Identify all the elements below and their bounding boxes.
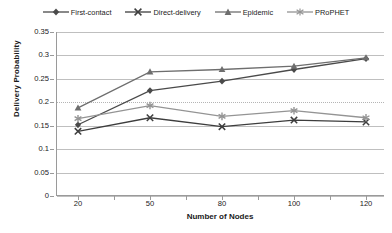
x-axis-tick-label: 50 <box>146 199 154 208</box>
y-axis-tick-label: 0.1 <box>38 145 49 153</box>
y-axis-tick-label: 0.25 <box>34 75 49 83</box>
legend-label-prophet: PRoPHET <box>315 8 349 17</box>
x-axis-tick-label: 100 <box>288 199 301 208</box>
series-layer <box>56 32 384 196</box>
legend-label-direct-delivery: Direct-delivery <box>153 8 200 17</box>
legend-marker-asterisk-icon <box>287 7 313 17</box>
y-axis-tick-label: 0.05 <box>34 169 49 177</box>
x-axis-tick-label: 80 <box>218 199 226 208</box>
y-axis-tick-labels: 00.050.10.150.20.250.30.35 <box>0 32 54 196</box>
legend-item-prophet[interactable]: PRoPHET <box>287 7 349 17</box>
y-axis-title: Delivery Probability <box>12 19 21 139</box>
data-point-diamond <box>147 87 153 94</box>
x-axis-tick-label: 20 <box>74 199 82 208</box>
y-axis-tick-label: 0.35 <box>34 28 49 36</box>
legend-item-first-contact[interactable]: First-contact <box>43 7 112 17</box>
legend-label-epidemic: Epidemic <box>243 8 273 17</box>
x-axis-tick-label: 120 <box>360 199 373 208</box>
y-axis-tick-label: 0.15 <box>34 122 49 130</box>
x-axis-title: Number of Nodes <box>56 212 384 221</box>
legend-label-first-contact: First-contact <box>71 8 112 17</box>
data-point-triangle <box>75 104 82 110</box>
legend-marker-x-cross-icon <box>125 7 151 17</box>
data-point-diamond <box>219 78 225 85</box>
legend-marker-triangle-icon <box>215 7 241 17</box>
legend-item-epidemic[interactable]: Epidemic <box>215 7 273 17</box>
chart-legend: First-contact Direct-delivery Epidemic <box>0 4 392 20</box>
y-axis-tick-label: 0 <box>45 192 49 200</box>
legend-marker-diamond-icon <box>43 7 69 17</box>
x-axis-tick-labels: 205080100120 <box>56 199 384 211</box>
y-axis-tick-label: 0.2 <box>38 98 49 106</box>
data-point-triangle <box>363 54 370 60</box>
legend-item-direct-delivery[interactable]: Direct-delivery <box>125 7 200 17</box>
y-axis-tick-label: 0.3 <box>38 51 49 59</box>
line-chart: First-contact Direct-delivery Epidemic <box>0 0 392 233</box>
